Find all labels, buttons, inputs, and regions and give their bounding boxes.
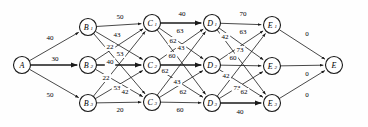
node-A[interactable]: A xyxy=(14,57,31,74)
edge-weight-C2-D2: 60 xyxy=(169,52,177,60)
node-C3[interactable]: C3 xyxy=(144,94,161,111)
node-subscript-E1: 1 xyxy=(275,24,278,29)
node-D1[interactable]: D1 xyxy=(204,15,221,32)
edge-weight-C1-D1: 40 xyxy=(179,10,187,18)
edge-weight-B1-C1: 50 xyxy=(117,13,125,21)
node-E1[interactable]: E1 xyxy=(264,17,281,34)
edge-weight-D3-E3: 40 xyxy=(237,108,245,116)
edge-weight-B2-C2: 40 xyxy=(107,58,115,66)
edge-weight-D3-E2: 62 xyxy=(241,88,249,96)
edge-weight-C3-D3: 60 xyxy=(177,106,185,114)
edge-weight-B1-C3: 22 xyxy=(107,43,115,51)
node-C2[interactable]: C2 xyxy=(144,57,161,74)
edge-D1-E1 xyxy=(220,23,261,24)
node-B1[interactable]: B1 xyxy=(80,19,97,36)
edge-E1-E xyxy=(279,30,325,60)
node-E3[interactable]: E3 xyxy=(264,95,281,112)
edge-weight-B1-C2: 43 xyxy=(114,31,122,39)
node-E2[interactable]: E2 xyxy=(264,58,281,75)
node-label-D2: D xyxy=(206,61,213,70)
node-subscript-C1: 1 xyxy=(155,22,158,27)
node-label-B3: B xyxy=(84,99,89,108)
edge-B3-C3 xyxy=(96,102,141,103)
node-subscript-D1: 1 xyxy=(215,22,218,27)
edge-weight-B2-C1: 53 xyxy=(117,50,125,58)
edge-weight-C2-D3: 62 xyxy=(162,67,170,75)
node-label-C2: C xyxy=(148,61,154,70)
node-C1[interactable]: C1 xyxy=(144,15,161,32)
node-label-A: A xyxy=(19,61,25,70)
node-label-C3: C xyxy=(148,98,154,107)
node-label-E: E xyxy=(331,61,337,70)
network-graph: 4030505043225340225342204063624360624362… xyxy=(0,0,368,127)
edge-weight-D2-E1: 73 xyxy=(237,46,245,54)
edge-B1-C1 xyxy=(96,24,141,27)
edge-weight-C2-D1: 43 xyxy=(178,44,186,52)
edge-weight-C1-D2: 63 xyxy=(177,27,185,35)
node-D3[interactable]: D3 xyxy=(204,95,221,112)
node-label-B1: B xyxy=(84,23,89,32)
node-label-E3: E xyxy=(267,99,273,108)
node-D2[interactable]: D2 xyxy=(204,57,221,74)
node-label-E2: E xyxy=(267,62,273,71)
edge-E3-E xyxy=(279,71,325,99)
node-label-D3: D xyxy=(206,99,213,108)
edge-weight-C3-D1: 43 xyxy=(174,78,182,86)
edge-weight-B2-C3: 22 xyxy=(103,74,111,82)
edge-weight-A-B1: 40 xyxy=(47,34,55,42)
node-label-B2: B xyxy=(84,61,89,70)
edge-weight-D2-E2: 60 xyxy=(230,54,238,62)
node-B3[interactable]: B3 xyxy=(80,95,97,112)
edge-weight-A-B2: 30 xyxy=(52,55,60,63)
edge-weight-B3-C2: 42 xyxy=(122,88,130,96)
edge-weight-E2-E: 0 xyxy=(305,70,309,78)
edge-weight-C3-D2: 62 xyxy=(180,88,188,96)
edge-weight-E3-E: 0 xyxy=(305,91,309,99)
network-diagram-canvas: 4030505043225340225342204063624360624362… xyxy=(0,0,368,127)
node-label-D1: D xyxy=(206,19,213,28)
edge-C3-D3 xyxy=(160,102,201,103)
edge-weight-D1-E3: 42 xyxy=(222,33,230,41)
node-label-C1: C xyxy=(148,19,154,28)
node-B2[interactable]: B2 xyxy=(80,57,97,74)
node-subscript-B1: 1 xyxy=(91,26,94,31)
edge-weight-E1-E: 0 xyxy=(305,30,309,38)
node-E[interactable]: E xyxy=(326,57,343,74)
edge-weight-D2-E3: 42 xyxy=(223,72,231,80)
edge-weight-D1-E2: 63 xyxy=(240,28,248,36)
edge-weight-A-B3: 50 xyxy=(47,91,55,99)
edge-E2-E xyxy=(280,65,323,66)
edge-weight-C1-D3: 62 xyxy=(170,37,178,45)
edge-weight-D1-E1: 70 xyxy=(240,10,248,18)
edge-weight-B3-C3: 20 xyxy=(117,106,125,114)
node-label-E1: E xyxy=(267,21,273,30)
